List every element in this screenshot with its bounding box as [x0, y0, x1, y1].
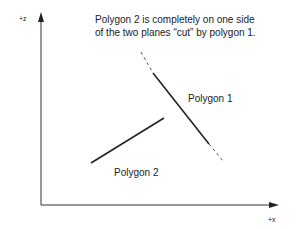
z-axis-arrowhead [38, 12, 44, 22]
polygon1-plane-extension-bottom [209, 144, 223, 161]
x-axis-arrowhead [269, 202, 279, 208]
polygon1-plane-extension-top [141, 52, 153, 73]
polygon1-label: Polygon 1 [188, 93, 232, 104]
polygon1-edge [153, 73, 209, 144]
caption-line-2: of the two planes “cut” by polygon 1. [95, 27, 256, 38]
z-axis-label: +z [19, 13, 27, 24]
caption-line-1: Polygon 2 is completely on one side [95, 14, 255, 25]
polygon2-label: Polygon 2 [114, 167, 158, 178]
polygon2-edge [91, 118, 164, 163]
x-axis-label: +x [268, 214, 276, 225]
